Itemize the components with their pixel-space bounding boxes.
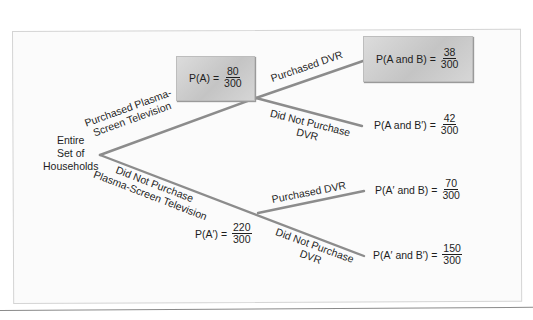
prob-lhs: P(A′ and B′) =: [373, 249, 437, 261]
prob-a: P(A) = 80 300: [189, 66, 242, 89]
prob-lhs: P(A′) =: [195, 228, 227, 240]
fraction: 70 300: [442, 178, 460, 201]
prob-a-and-b-prime: P(A and B′) = 42 300: [374, 113, 458, 136]
prob-a-prime-and-b-prime: P(A′ and B′) = 150 300: [373, 243, 462, 266]
prob-lhs: P(A and B′) =: [374, 119, 436, 131]
denominator: 300: [233, 234, 251, 245]
prob-a-prime-and-b: P(A′ and B) = 70 300: [375, 178, 460, 201]
denominator: 300: [442, 190, 460, 201]
fraction: 42 300: [441, 113, 459, 136]
fraction: 150 300: [442, 243, 462, 266]
fraction: 220 300: [232, 222, 252, 245]
root-line-3: Households: [43, 160, 98, 173]
prob-a-and-b: P(A and B) = 38 300: [376, 47, 458, 70]
prob-a-prime: P(A′) = 220 300: [195, 222, 252, 245]
denominator: 300: [443, 255, 461, 266]
prob-lhs: P(A′ and B) =: [375, 184, 437, 196]
root-line-2: Set of: [43, 147, 98, 160]
prob-lhs: P(A and B) =: [376, 53, 436, 65]
fraction: 80 300: [224, 66, 242, 89]
prob-lhs: P(A) =: [189, 72, 219, 84]
fraction: 38 300: [441, 47, 459, 70]
denominator: 300: [224, 78, 242, 89]
denominator: 300: [441, 125, 459, 136]
denominator: 300: [441, 59, 459, 70]
